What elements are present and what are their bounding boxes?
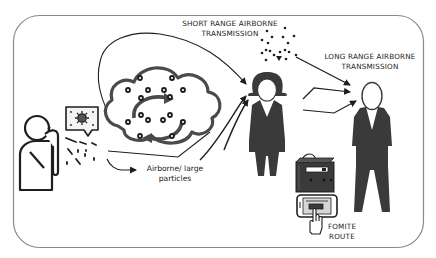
short-range-arrow-2 bbox=[224, 100, 248, 150]
man-figure-icon bbox=[352, 83, 392, 213]
large-particles-label-line2: particles bbox=[136, 174, 214, 184]
woman-to-man-arrow-1 bbox=[303, 88, 350, 99]
large-particles-label: Airborne/ large particles bbox=[136, 164, 214, 184]
woman-figure-icon bbox=[248, 72, 287, 176]
fomite-route-label-line2: ROUTE bbox=[322, 232, 362, 242]
fomite-route-label-line1: FOMITE bbox=[322, 222, 362, 232]
coughing-person-icon bbox=[20, 116, 58, 190]
long-range-label-line1: LONG RANGE AIRBORNE bbox=[315, 52, 425, 62]
transmission-diagram: SHORT RANGE AIRBORNE TRANSMISSION LONG R… bbox=[0, 0, 436, 258]
long-range-label-line2: TRANSMISSION bbox=[315, 62, 425, 72]
large-particles-label-line1: Airborne/ large bbox=[136, 164, 214, 174]
cough-spray-particles bbox=[66, 138, 96, 164]
short-range-label-line2: TRANSMISSION bbox=[165, 29, 295, 39]
short-range-label: SHORT RANGE AIRBORNE TRANSMISSION bbox=[165, 19, 295, 39]
long-range-label: LONG RANGE AIRBORNE TRANSMISSION bbox=[315, 52, 425, 72]
fomite-route-label: FOMITE ROUTE bbox=[322, 222, 362, 242]
virus-bubble bbox=[66, 107, 98, 136]
short-range-label-line1: SHORT RANGE AIRBORNE bbox=[165, 19, 295, 29]
large-particles-arrow bbox=[107, 159, 136, 170]
woman-to-man-arrow-2 bbox=[303, 101, 356, 113]
cloud-recirculation-icon bbox=[105, 68, 219, 143]
